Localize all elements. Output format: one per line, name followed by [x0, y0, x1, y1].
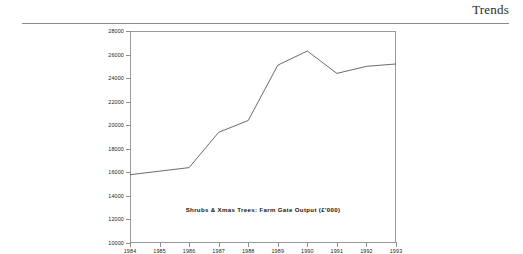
x-axis-label: 1990 [295, 248, 319, 254]
running-header: Trends [0, 0, 523, 26]
chart-figure: 1000012000140001600018000200002200024000… [0, 26, 523, 250]
y-axis-label: 22000 [96, 99, 124, 105]
header-divider [22, 23, 509, 24]
y-axis-label: 20000 [96, 122, 124, 128]
x-axis-label: 1985 [148, 248, 172, 254]
y-axis-label: 28000 [96, 28, 124, 34]
x-axis-label: 1988 [236, 248, 260, 254]
x-axis-label: 1993 [384, 248, 408, 254]
header-title: Trends [472, 2, 509, 18]
x-axis-tick [396, 242, 397, 247]
y-axis-label: 26000 [96, 52, 124, 58]
chart-title: Shrubs & Xmas Trees: Farm Gate Output (£… [130, 206, 396, 213]
x-axis-label: 1992 [354, 248, 378, 254]
y-axis-label: 24000 [96, 75, 124, 81]
x-axis-label: 1989 [266, 248, 290, 254]
x-axis-label: 1987 [207, 248, 231, 254]
series-polyline [130, 51, 396, 175]
x-axis-label: 1984 [118, 248, 142, 254]
y-axis-label: 14000 [96, 193, 124, 199]
x-axis-label: 1991 [325, 248, 349, 254]
x-axis-label: 1986 [177, 248, 201, 254]
y-axis-label: 12000 [96, 216, 124, 222]
y-axis-label: 16000 [96, 169, 124, 175]
y-axis-label: 10000 [96, 240, 124, 246]
y-axis-label: 18000 [96, 146, 124, 152]
